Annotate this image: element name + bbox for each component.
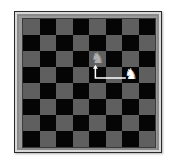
board-square[interactable] — [122, 99, 139, 115]
board-square[interactable] — [40, 115, 57, 131]
board-square[interactable] — [56, 19, 73, 35]
board-square[interactable] — [122, 131, 139, 147]
board-square[interactable] — [122, 115, 139, 131]
board-square[interactable] — [139, 83, 156, 99]
board-square[interactable] — [89, 19, 106, 35]
board-square[interactable] — [106, 19, 123, 35]
board-square[interactable] — [139, 35, 156, 51]
board-square[interactable] — [23, 99, 40, 115]
board-square[interactable] — [122, 35, 139, 51]
board-square[interactable] — [106, 67, 123, 83]
board-square[interactable] — [56, 83, 73, 99]
board-square[interactable] — [23, 35, 40, 51]
board-square[interactable] — [73, 99, 90, 115]
board-square[interactable] — [122, 19, 139, 35]
board-square[interactable] — [89, 99, 106, 115]
board-square[interactable] — [122, 83, 139, 99]
board-square[interactable] — [23, 67, 40, 83]
board-square[interactable] — [106, 99, 123, 115]
board-square[interactable] — [73, 67, 90, 83]
board-square[interactable] — [139, 19, 156, 35]
board-square[interactable] — [106, 131, 123, 147]
board-square[interactable] — [89, 83, 106, 99]
board-square[interactable] — [89, 131, 106, 147]
board-square[interactable] — [106, 51, 123, 67]
board-square[interactable] — [40, 19, 57, 35]
board-square[interactable] — [106, 35, 123, 51]
board-square[interactable] — [139, 51, 156, 67]
board-square[interactable] — [40, 35, 57, 51]
board-square[interactable] — [23, 131, 40, 147]
board-square[interactable] — [73, 131, 90, 147]
board-square[interactable] — [56, 35, 73, 51]
ghost-knight-icon: ♞ — [89, 51, 105, 66]
white-knight-icon[interactable]: ♞ — [123, 67, 139, 82]
board-square[interactable] — [73, 83, 90, 99]
board-square[interactable] — [40, 51, 57, 67]
board-square[interactable] — [23, 115, 40, 131]
board-square[interactable] — [139, 131, 156, 147]
board-square[interactable] — [23, 19, 40, 35]
board-square[interactable] — [40, 67, 57, 83]
board-square[interactable] — [73, 35, 90, 51]
board-square[interactable] — [56, 131, 73, 147]
board-square[interactable] — [23, 51, 40, 67]
board-square[interactable] — [73, 51, 90, 67]
board-square[interactable] — [56, 51, 73, 67]
board-square[interactable] — [40, 99, 57, 115]
board-square[interactable] — [40, 83, 57, 99]
board-square[interactable] — [73, 115, 90, 131]
board-square[interactable] — [40, 131, 57, 147]
board-square[interactable] — [139, 115, 156, 131]
board-square[interactable] — [73, 19, 90, 35]
board-square[interactable] — [139, 67, 156, 83]
board-square[interactable] — [23, 83, 40, 99]
board-square[interactable] — [56, 99, 73, 115]
board-square[interactable] — [56, 115, 73, 131]
board-square[interactable] — [56, 67, 73, 83]
board-square[interactable] — [89, 67, 106, 83]
chess-board[interactable] — [22, 18, 156, 148]
board-square[interactable] — [89, 115, 106, 131]
board-square[interactable] — [139, 99, 156, 115]
board-square[interactable] — [106, 83, 123, 99]
board-square[interactable] — [106, 115, 123, 131]
